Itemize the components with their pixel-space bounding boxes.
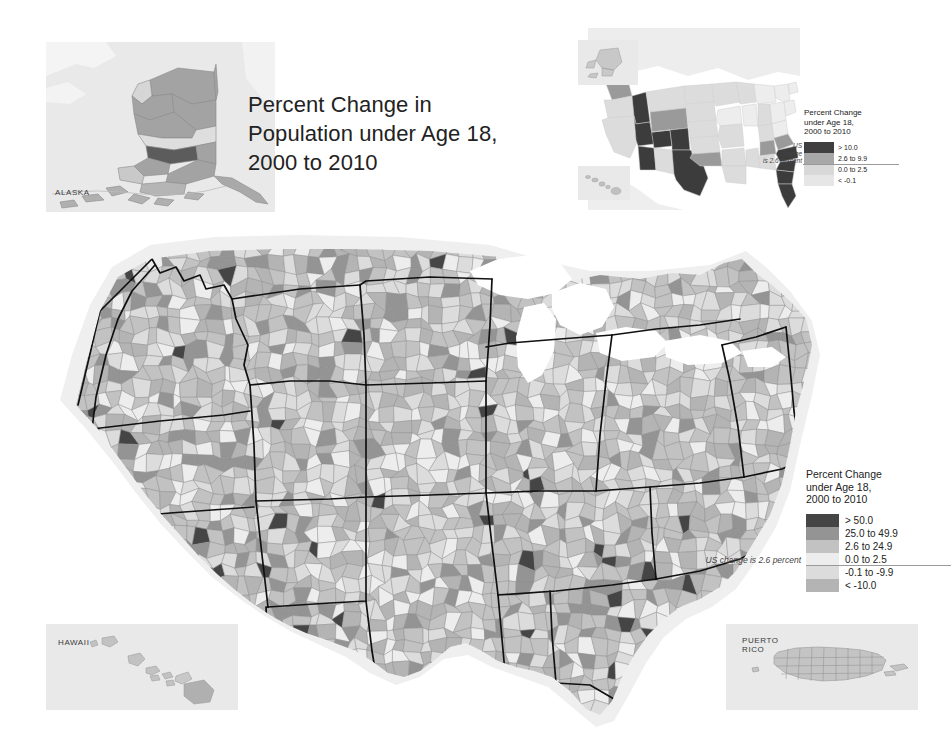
- county-legend-swatch-3: [806, 553, 839, 566]
- state-legend-row: < -0.1: [804, 175, 904, 186]
- county-polygon: [466, 439, 486, 456]
- county-polygon: [294, 255, 309, 275]
- state-legend-label-2: 0.0 to 2.5: [838, 166, 867, 173]
- county-polygon: [348, 394, 361, 403]
- state-NM: [654, 148, 674, 174]
- state-legend-row: 0.0 to 2.5: [804, 164, 904, 175]
- page-title-line3: 2000 to 2010: [248, 148, 538, 177]
- county-polygon: [714, 428, 731, 444]
- overview-hawaii-mini-map: [578, 166, 630, 200]
- alaska-inset-panel: ALASKA: [46, 42, 275, 212]
- county-polygon: [391, 433, 412, 445]
- state-MN: [712, 82, 740, 106]
- county-polygon: [391, 421, 412, 433]
- state-AZ: [638, 146, 656, 170]
- county-polygon: [132, 378, 151, 398]
- state-KY: [758, 124, 774, 142]
- county-polygon: [417, 282, 430, 297]
- county-legend-label-2: 2.6 to 24.9: [845, 541, 892, 552]
- county-polygon: [757, 494, 769, 502]
- county-legend-us-note: US change is 2.6 percent: [606, 556, 801, 566]
- county-polygon: [740, 429, 756, 444]
- county-legend-label-5: < -10.0: [845, 580, 876, 591]
- county-legend-swatch-5: [806, 579, 839, 592]
- county-polygon: [491, 581, 509, 595]
- state-KS: [690, 136, 720, 154]
- county-legend-label-3: 0.0 to 2.5: [845, 554, 887, 565]
- county-polygon: [429, 305, 443, 324]
- county-legend-swatch-1: [806, 527, 839, 540]
- county-legend-swatch-0: [806, 514, 839, 527]
- county-polygon: [379, 406, 394, 423]
- county-polygon: [405, 328, 421, 342]
- county-polygon: [341, 342, 362, 354]
- county-legend-row: 0.0 to 2.5: [806, 553, 946, 566]
- state-IN: [758, 104, 772, 126]
- county-polygon: [471, 628, 485, 640]
- overview-alaska-mini-map: [578, 40, 638, 85]
- county-legend-row: 25.0 to 49.9: [806, 527, 946, 540]
- county-polygon: [292, 616, 311, 626]
- county-polygon: [131, 343, 148, 356]
- county-legend-label-4: -0.1 to -9.9: [845, 567, 893, 578]
- state-legend-title: Percent Change under Age 18, 2000 to 201…: [804, 108, 904, 137]
- state-legend: Percent Change under Age 18, 2000 to 201…: [804, 108, 904, 186]
- county-legend-row: 2.6 to 24.9: [806, 540, 946, 553]
- county-polygon: [583, 377, 596, 391]
- overview-alaska-mini-inset: [578, 40, 638, 85]
- county-legend-swatch-2: [806, 540, 839, 553]
- state-MI: [754, 84, 776, 104]
- county-polygon: [342, 611, 361, 628]
- state-legend-swatch-1: [804, 153, 834, 164]
- page-title-line2: Population under Age 18,: [248, 119, 538, 148]
- county-legend: Percent Change under Age 18, 2000 to 201…: [806, 468, 946, 592]
- county-polygon: [594, 655, 609, 669]
- state-ND: [684, 84, 714, 104]
- state-GA: [776, 170, 794, 184]
- alaska-inset-label: ALASKA: [55, 188, 90, 197]
- state-SD: [686, 102, 716, 122]
- state-NE-region: [788, 82, 798, 94]
- county-polygon: [408, 308, 422, 320]
- alaska-inset-map: [46, 42, 275, 212]
- state-legend-swatch-0: [804, 142, 834, 153]
- county-legend-label-1: 25.0 to 49.9: [845, 528, 898, 539]
- county-legend-title: Percent Change under Age 18, 2000 to 201…: [806, 468, 946, 506]
- county-legend-label-0: > 50.0: [845, 515, 873, 526]
- state-legend-label-3: < -0.1: [838, 177, 856, 184]
- state-legend-row: 2.6 to 9.9: [804, 153, 904, 164]
- state-legend-swatch-2: [804, 164, 834, 175]
- county-legend-classes: > 50.0 25.0 to 49.9 2.6 to 24.9 0.0 to 2…: [806, 514, 946, 592]
- county-polygon: [568, 589, 583, 605]
- county-polygon: [760, 304, 769, 319]
- county-legend-row: > 50.0: [806, 514, 946, 527]
- county-legend-row: -0.1 to -9.9: [806, 566, 946, 579]
- county-polygon: [391, 341, 406, 358]
- county-polygon: [210, 504, 220, 521]
- county-polygon: [746, 502, 759, 520]
- state-legend-us-note: US change is 2.6 percent: [728, 142, 802, 165]
- state-legend-leader-line: [803, 164, 899, 165]
- hawaii-inset-label: HAWAII: [58, 638, 89, 647]
- state-LA: [722, 166, 746, 184]
- county-legend-swatch-4: [806, 566, 839, 579]
- county-polygon: [691, 378, 711, 398]
- puerto-rico-inset-panel: PUERTO RICO: [726, 624, 918, 710]
- county-polygon: [581, 442, 598, 456]
- county-polygon: [344, 354, 362, 370]
- county-polygon: [391, 476, 409, 489]
- state-NE: [688, 120, 718, 138]
- overview-hawaii-mini-inset: [578, 166, 630, 200]
- county-legend-leader-line: [806, 565, 951, 566]
- page-title: Percent Change in Population under Age 1…: [248, 90, 538, 177]
- state-legend-swatch-3: [804, 175, 834, 186]
- page-title-line1: Percent Change in: [248, 90, 538, 119]
- county-polygon: [504, 636, 522, 653]
- county-legend-row: < -10.0: [806, 579, 946, 592]
- county-polygon: [225, 333, 234, 347]
- county-polygon: [481, 525, 494, 544]
- county-polygon: [518, 612, 536, 631]
- county-polygon: [233, 477, 251, 496]
- county-polygon: [515, 405, 534, 421]
- state-legend-label-0: > 10.0: [838, 144, 858, 151]
